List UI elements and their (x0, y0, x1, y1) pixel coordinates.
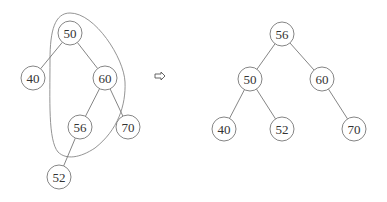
node-label: 70 (348, 122, 361, 137)
tree-edge (230, 90, 245, 119)
right-node-56: 56 (270, 22, 294, 46)
node-label: 40 (218, 122, 231, 137)
left-node-60: 60 (93, 66, 117, 90)
tree-edge (41, 42, 63, 68)
left-tree-edges (41, 42, 123, 166)
tree-edge (85, 89, 99, 117)
right-node-40: 40 (212, 117, 236, 141)
tree-edge (328, 89, 347, 119)
node-label: 50 (244, 72, 257, 87)
transform-arrow-icon (155, 72, 165, 80)
right-node-60: 60 (310, 67, 334, 91)
node-label: 60 (316, 72, 329, 87)
left-node-40: 40 (21, 66, 45, 90)
right-node-70: 70 (342, 117, 366, 141)
tree-edge (77, 42, 97, 68)
node-label: 52 (53, 170, 66, 185)
left-node-70: 70 (116, 115, 140, 139)
left-node-56: 56 (68, 115, 92, 139)
left-node-52: 52 (47, 165, 71, 189)
right-tree-nodes: 56 50 60 40 52 70 (212, 22, 366, 141)
tree-edge (256, 89, 275, 119)
left-node-50: 50 (58, 21, 82, 45)
node-label: 40 (27, 71, 40, 86)
right-node-50: 50 (238, 67, 262, 91)
node-label: 70 (122, 120, 135, 135)
tree-edge (110, 89, 123, 116)
tree-diagram: 50 40 60 56 70 52 56 50 (0, 0, 387, 202)
node-label: 52 (276, 122, 289, 137)
node-label: 56 (276, 27, 290, 42)
node-label: 50 (64, 26, 77, 41)
node-label: 56 (74, 120, 88, 135)
tree-edge (257, 44, 275, 69)
right-node-52: 52 (270, 117, 294, 141)
tree-edge (290, 43, 314, 70)
node-label: 60 (99, 71, 112, 86)
tree-edge (64, 138, 76, 166)
